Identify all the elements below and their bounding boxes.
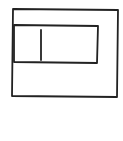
text-input-field[interactable] [14,25,98,63]
window-frame [12,9,118,97]
wireframe-sketch [0,0,123,141]
